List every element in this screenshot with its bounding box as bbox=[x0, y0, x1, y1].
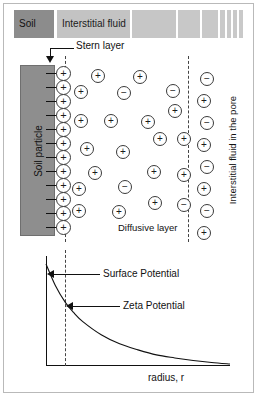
stern-layer-cation: + bbox=[56, 122, 71, 137]
surface-potential-label: Surface Potential bbox=[103, 268, 179, 279]
diffuse-layer-cation: + bbox=[72, 182, 86, 196]
stern-layer-cation: + bbox=[56, 150, 71, 165]
diffuse-layer-cation: + bbox=[177, 132, 191, 146]
diffuse-layer-cation: + bbox=[177, 168, 191, 182]
pore-fluid-cation: + bbox=[197, 138, 211, 152]
diffuse-layer-cation: + bbox=[104, 114, 118, 128]
diffuse-layer-anion: − bbox=[166, 84, 180, 98]
pore-fluid-anion: − bbox=[200, 72, 214, 86]
x-axis-label: radius, r bbox=[148, 372, 184, 383]
diffuse-layer-cation: + bbox=[133, 70, 147, 84]
stern-layer-cation: + bbox=[56, 80, 71, 95]
stern-layer-cation: + bbox=[56, 178, 71, 193]
diffuse-layer-anion: − bbox=[177, 198, 191, 212]
zeta-potential-arrowhead bbox=[66, 302, 73, 310]
diffuse-layer-cation: + bbox=[148, 196, 162, 210]
stern-layer-cation: + bbox=[56, 136, 71, 151]
diffuse-layer-anion: − bbox=[118, 180, 132, 194]
diffuse-layer-cation: + bbox=[168, 104, 182, 118]
soil-particle-block: Soil particle bbox=[20, 65, 55, 236]
diffuse-layer-cation: + bbox=[74, 85, 88, 99]
diffuse-layer-cation: + bbox=[74, 114, 88, 128]
pore-fluid-cation: + bbox=[197, 226, 211, 240]
pore-fluid-cation: + bbox=[197, 94, 211, 108]
stern-layer-cation: + bbox=[56, 206, 71, 221]
stern-layer-cation: + bbox=[56, 220, 71, 235]
stern-layer-cation: + bbox=[56, 164, 71, 179]
pore-fluid-anion: − bbox=[200, 204, 214, 218]
diffuse-layer-cation: + bbox=[153, 132, 167, 146]
surface-potential-leader-line bbox=[54, 274, 100, 275]
soil-particle-label: Soil particle bbox=[32, 125, 43, 177]
zeta-potential-label: Zeta Potential bbox=[123, 300, 185, 311]
stern-layer-cation: + bbox=[56, 108, 71, 123]
diffuse-layer-cation: + bbox=[116, 145, 130, 159]
stern-layer-cation: + bbox=[56, 192, 71, 207]
diffuse-layer-cation: + bbox=[88, 166, 102, 180]
diffuse-layer-cation: + bbox=[147, 165, 161, 179]
diffusive-layer-boundary bbox=[188, 56, 189, 242]
pore-fluid-anion: − bbox=[200, 160, 214, 174]
diffuse-layer-cation: + bbox=[112, 205, 126, 219]
zeta-potential-leader-line bbox=[73, 306, 120, 307]
surface-potential-arrowhead bbox=[47, 270, 54, 278]
diffusive-layer-label: Diffusive layer bbox=[118, 222, 178, 233]
pore-fluid-label: Interstitial fluid in the pore bbox=[227, 96, 238, 204]
diffuse-layer-cation: + bbox=[72, 204, 86, 218]
potential-plot: Surface Potential Zeta Potential radius,… bbox=[0, 248, 257, 388]
stern-layer-cation: + bbox=[56, 66, 71, 81]
figure-root: SoilInterstitial fluid Stern layer Soil … bbox=[0, 0, 257, 396]
diffuse-layer-cation: + bbox=[91, 69, 105, 83]
pore-fluid-anion: − bbox=[200, 116, 214, 130]
diffuse-layer-cation: + bbox=[80, 142, 94, 156]
stern-layer-cation: + bbox=[56, 94, 71, 109]
diffuse-layer-cation: + bbox=[141, 115, 155, 129]
pore-fluid-cation: + bbox=[197, 182, 211, 196]
diffuse-layer-anion: − bbox=[117, 86, 131, 100]
